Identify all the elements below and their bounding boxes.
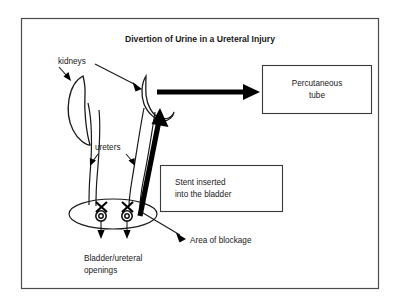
area-of-blockage-label: Area of blockage [190, 236, 252, 245]
percutaneous-tube-box [263, 66, 372, 114]
percutaneous-tube-label-line2: tube [309, 91, 325, 100]
percutaneous-tube-label-line1: Percutaneous [292, 79, 343, 88]
stent-box [161, 166, 283, 212]
stent-label-line2: into the bladder [175, 190, 232, 199]
stent-label-line1: Stent inserted [175, 178, 226, 187]
bladder-openings-label-line1: Bladder/ureteral [84, 254, 142, 263]
page-title: Divertion of Urine in a Ureteral Injury [125, 34, 275, 44]
figure-root: Divertion of Urine in a Ureteral Injury [0, 0, 401, 307]
ureters-label: ureters [95, 143, 120, 152]
bladder-openings-label-line2: openings [84, 266, 117, 275]
kidneys-label: kidneys [58, 57, 86, 66]
urine-diversion-diagram: Divertion of Urine in a Ureteral Injury [0, 0, 401, 307]
